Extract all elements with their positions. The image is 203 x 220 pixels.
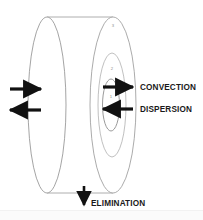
compartment-diagram: 3 2 1 CONVECTION DISPERSION ELIMINATION bbox=[0, 0, 203, 220]
dispersion-label: DISPERSION bbox=[140, 105, 192, 114]
elimination-label: ELIMINATION bbox=[91, 199, 145, 208]
cylinder-right-face bbox=[90, 17, 136, 193]
figure-canvas: 3 2 1 CONVECTION DISPERSION ELIMINATION bbox=[0, 0, 203, 220]
caption-band bbox=[0, 210, 203, 220]
cylinder-left-face bbox=[28, 17, 66, 193]
convection-label: CONVECTION bbox=[140, 83, 196, 92]
